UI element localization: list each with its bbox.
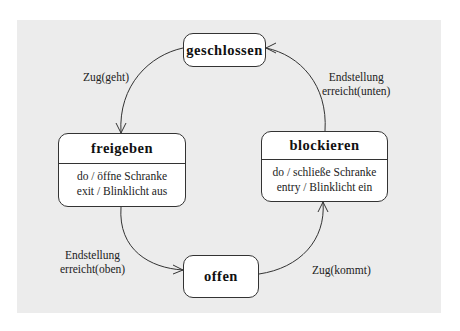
state-title: geschlossen xyxy=(186,42,262,59)
edge-geschlossen-freigeben xyxy=(121,48,183,133)
transition-label-zug-geht: Zug(geht) xyxy=(83,70,129,84)
action-entry: entry / Blinklicht ein xyxy=(262,180,387,195)
edge-freigeben-offen xyxy=(121,207,183,270)
state-title: offen xyxy=(204,268,238,285)
state-offen: offen xyxy=(183,255,259,298)
state-title: blockieren xyxy=(262,132,387,159)
action-do: do / öffne Schranke xyxy=(59,169,185,184)
state-freigeben: freigeben do / öffne Schranke exit / Bli… xyxy=(58,133,186,207)
transition-label-zug-kommt: Zug(kommt) xyxy=(312,263,371,277)
state-actions: do / schließe Schranke entry / Blinklich… xyxy=(262,160,387,195)
action-exit: exit / Blinklicht aus xyxy=(59,184,185,199)
edge-blockieren-geschlossen xyxy=(266,48,325,131)
transition-label-endstellung-oben: Endstellung erreicht(oben) xyxy=(60,248,125,276)
state-blockieren: blockieren do / schließe Schranke entry … xyxy=(261,131,388,202)
state-title: freigeben xyxy=(59,134,185,163)
state-actions: do / öffne Schranke exit / Blinklicht au… xyxy=(59,164,185,199)
state-geschlossen: geschlossen xyxy=(183,33,266,67)
action-do: do / schließe Schranke xyxy=(262,165,387,180)
transition-label-endstellung-unten: Endstellung erreicht(unten) xyxy=(322,70,390,98)
